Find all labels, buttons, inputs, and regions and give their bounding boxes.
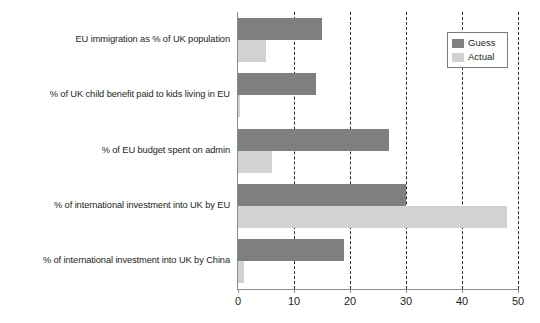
- tick-mark-30: [406, 289, 407, 293]
- bar-actual-2: [238, 151, 272, 173]
- tick-mark-10: [294, 289, 295, 293]
- tick-mark-20: [350, 289, 351, 293]
- bar-actual-3: [238, 206, 507, 228]
- bar-guess-2: [238, 129, 389, 151]
- bar-guess-4: [238, 239, 344, 261]
- category-label-2: % of EU budget spent on admin: [102, 145, 230, 156]
- gridline-20: [350, 12, 351, 289]
- legend-label-actual: Actual: [468, 52, 494, 62]
- legend-item-guess: Guess: [452, 36, 503, 50]
- x-tick-label-0: 0: [235, 295, 241, 307]
- x-tick-label-10: 10: [288, 295, 300, 307]
- chart-legend: Guess Actual: [447, 32, 508, 68]
- gridline-30: [406, 12, 407, 289]
- x-tick-label-50: 50: [512, 295, 524, 307]
- legend-swatch-actual-icon: [452, 53, 464, 62]
- tick-mark-40: [462, 289, 463, 293]
- category-label-3: % of international investment into UK by…: [54, 200, 230, 211]
- bar-guess-1: [238, 73, 316, 95]
- bar-chart: EU immigration as % of UK population% of…: [0, 0, 540, 323]
- x-tick-label-40: 40: [456, 295, 468, 307]
- category-axis-labels: EU immigration as % of UK population% of…: [0, 12, 233, 289]
- gridline-50: [518, 12, 519, 289]
- legend-item-actual: Actual: [452, 50, 503, 64]
- bar-actual-4: [238, 261, 244, 283]
- legend-swatch-guess-icon: [452, 39, 464, 48]
- x-axis-line: [237, 289, 518, 290]
- bar-guess-3: [238, 184, 406, 206]
- x-tick-label-20: 20: [344, 295, 356, 307]
- tick-mark-0: [238, 289, 239, 293]
- legend-label-guess: Guess: [468, 38, 495, 48]
- bar-guess-0: [238, 18, 322, 40]
- bar-actual-1: [238, 95, 240, 117]
- tick-mark-50: [518, 289, 519, 293]
- x-tick-label-30: 30: [400, 295, 412, 307]
- category-label-0: EU immigration as % of UK population: [75, 34, 230, 45]
- category-label-4: % of international investment into UK by…: [43, 255, 230, 266]
- category-label-1: % of UK child benefit paid to kids livin…: [50, 89, 230, 100]
- bar-actual-0: [238, 40, 266, 62]
